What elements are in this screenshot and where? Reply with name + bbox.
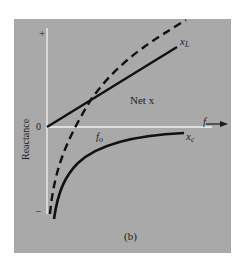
y-minus-label: – bbox=[35, 205, 42, 216]
x-axis-label: f bbox=[203, 115, 208, 127]
figure-caption: (b) bbox=[124, 230, 137, 243]
resonance-label: fo bbox=[96, 130, 103, 144]
reactance-diagram: + 0 – Reactance f xL Net x fo xc (b) bbox=[0, 0, 246, 266]
y-zero-label: 0 bbox=[36, 121, 41, 132]
inductive-reactance-line bbox=[47, 47, 177, 127]
inductive-label: xL bbox=[179, 35, 190, 49]
net-reactance-label: Net x bbox=[130, 94, 155, 106]
capacitive-label: xc bbox=[185, 130, 195, 144]
y-axis-label: Reactance bbox=[20, 118, 31, 160]
y-plus-label: + bbox=[39, 27, 45, 39]
net-reactance-curve bbox=[50, 20, 186, 214]
capacitive-reactance-curve bbox=[54, 133, 184, 219]
x-axis-arrow-icon bbox=[206, 121, 228, 127]
